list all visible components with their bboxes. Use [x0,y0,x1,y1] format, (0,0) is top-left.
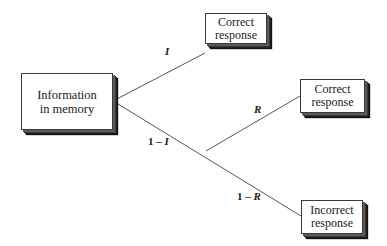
node-incorrect-response: Incorrect response [301,200,363,234]
node-label-line2: response [312,96,354,109]
edge-root-to-correct-top [113,53,205,101]
edge-label-i: I [165,45,169,57]
edge-label-one-minus-r: 1 – R [237,190,261,202]
node-correct-response-middle: Correct response [300,79,365,113]
node-information-in-memory: Information in memory [21,73,113,130]
edge-branch-to-correct-mid [206,96,300,151]
node-label-line1: Correct [215,16,257,29]
edge-label-one-minus-i: 1 – I [148,135,169,147]
node-label-line2: response [310,217,353,230]
node-correct-response-top: Correct response [205,13,267,44]
node-label-line1: Information [37,88,97,102]
edge-label-r: R [254,103,261,115]
edge-root-to-incorrect [113,101,301,216]
node-label-line2: response [215,29,257,42]
node-label-line2: in memory [37,102,97,116]
probability-tree-diagram: Information in memory Correct response C… [0,0,387,246]
